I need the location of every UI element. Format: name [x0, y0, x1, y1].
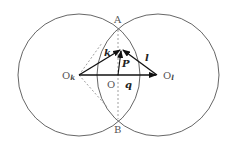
label-l: l: [145, 52, 149, 63]
vector-P: [118, 51, 121, 75]
dashed-line-Ok-lower: [79, 75, 108, 108]
vector-k: [79, 50, 120, 75]
label-B: B: [114, 124, 121, 135]
label-q: q: [125, 79, 132, 90]
label-P: P: [121, 58, 130, 69]
two-circle-vector-diagram: A B O Ok Ol k l P q: [0, 0, 233, 144]
label-Ol: Ol: [163, 70, 174, 82]
label-O: O: [107, 79, 115, 90]
label-Ok: Ok: [62, 70, 75, 82]
dashed-line-Ok-upper: [79, 43, 102, 75]
label-k: k: [104, 47, 111, 58]
label-A: A: [113, 14, 122, 25]
